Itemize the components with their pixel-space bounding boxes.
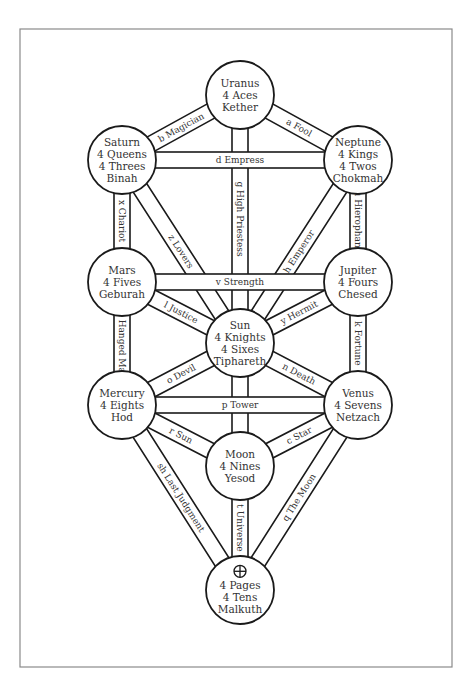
sephirah-label-line: 4 Sixes [221, 343, 259, 355]
sephirah-label-line: 4 Kings [338, 148, 378, 160]
sephirah-label-line: Netzach [336, 411, 380, 423]
path-strength: v Strength [122, 274, 358, 290]
sephirah-label-line: Kether [222, 101, 259, 113]
sephirah-label-line: Neptune [335, 136, 381, 148]
sephirah-label-line: 4 Tens [223, 591, 258, 603]
sephirah-chesed: Jupiter4 FoursChesed [324, 248, 392, 316]
sephirah-label-line: Tiphareth [214, 355, 267, 367]
sephirah-label-line: 4 Knights [214, 331, 265, 343]
sephirah-label-line: Mars [108, 264, 135, 276]
earth-symbol-icon [234, 565, 246, 577]
sephirah-kether: Uranus4 AcesKether [206, 61, 274, 129]
path-label: k Fortune [353, 321, 363, 365]
sephirah-label-line: Mercury [99, 387, 145, 399]
sephirah-label-line: Venus [341, 387, 374, 399]
sephirah-malkuth: 4 Pages4 TensMalkuth [206, 556, 274, 624]
sephirah-label-line: Geburah [99, 288, 145, 300]
sephirah-label-line: 4 Fives [103, 276, 141, 288]
sephirah-label-line: 4 Queens [97, 148, 147, 160]
sephirah-label-line: 4 Nines [220, 460, 261, 472]
sephirah-label-line: Chokmah [333, 172, 384, 184]
sephirah-label-line: Uranus [220, 77, 259, 89]
sephirah-tiphareth: Sun4 Knights4 SixesTiphareth [206, 309, 274, 377]
path-label: t Universe [235, 504, 245, 551]
path-label: h Emperor [282, 228, 317, 275]
sephirah-label-line: 4 Twos [339, 160, 376, 172]
sephirah-hod: Mercury4 EightsHod [88, 371, 156, 439]
path-label: u Hierophant [353, 191, 363, 252]
path-high-priestess: g High Priestess [232, 95, 248, 343]
path-label: g High Priestess [235, 181, 245, 257]
tree-of-life-diagram: a Foolb Magiciang High Priestessd Empres… [0, 0, 469, 686]
path-label: p Tower [222, 400, 259, 410]
sephirah-label-line: 4 Eights [100, 399, 144, 411]
sephirah-chokmah: Neptune4 Kings4 TwosChokmah [324, 126, 392, 194]
sephirah-label-line: Yesod [224, 472, 256, 484]
sephirah-label-line: 4 Sevens [334, 399, 382, 411]
sephirah-yesod: Moon4 NinesYesod [206, 432, 274, 500]
sephirah-label-line: Hod [111, 411, 133, 423]
sephirah-label-line: 4 Threes [99, 160, 146, 172]
sephirah-binah: Saturn4 Queens4 ThreesBinah [88, 126, 156, 194]
sephirah-label-line: Chesed [338, 288, 378, 300]
path-label: x Chariot [117, 200, 127, 243]
path-label: sh Last Judgment [155, 461, 207, 534]
sephirah-label-line: Binah [107, 172, 138, 184]
sephirah-netzach: Venus4 SevensNetzach [324, 371, 392, 439]
sephirah-label-line: Saturn [104, 136, 140, 148]
path-tower: p Tower [122, 397, 358, 413]
sephirah-label-line: Malkuth [218, 603, 263, 615]
sephirah-label-line: Moon [225, 448, 255, 460]
sephirah-geburah: Mars4 FivesGeburah [88, 248, 156, 316]
sephirah-label-line: 4 Fours [338, 276, 378, 288]
path-label: v Strength [215, 277, 265, 287]
path-label: q The Moon [280, 472, 318, 523]
sephirah-label-line: 4 Aces [222, 89, 257, 101]
sephirah-label-line: 4 Pages [219, 579, 260, 591]
sephirah-label-line: Jupiter [339, 264, 377, 276]
sephirah-label-line: Sun [230, 319, 251, 331]
path-empress: d Empress [122, 152, 358, 168]
tree-of-life-canvas: a Foolb Magiciang High Priestessd Empres… [0, 0, 469, 686]
path-label: d Empress [216, 155, 265, 165]
path-label: m Hanged Man [117, 308, 127, 379]
